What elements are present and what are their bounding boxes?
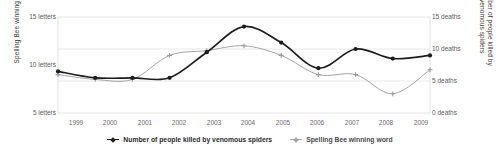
series-line bbox=[58, 26, 430, 79]
data-point-marker bbox=[316, 72, 321, 77]
series-spider-deaths bbox=[56, 25, 432, 80]
legend-item-spider-deaths[interactable]: Number of people killed by venomous spid… bbox=[107, 136, 272, 143]
chart-legend: Number of people killed by venomous spid… bbox=[0, 136, 500, 143]
data-point-marker bbox=[56, 69, 60, 73]
data-point-marker bbox=[130, 76, 134, 80]
data-point-marker bbox=[242, 25, 246, 29]
legend-label-spelling-bee: Spelling Bee winning word bbox=[306, 136, 392, 143]
data-point-marker bbox=[167, 53, 172, 58]
series-layer bbox=[56, 25, 433, 97]
data-point-marker bbox=[93, 76, 97, 80]
legend-item-spelling-bee[interactable]: Spelling Bee winning word bbox=[290, 136, 392, 143]
data-point-marker bbox=[279, 41, 283, 45]
data-point-marker bbox=[242, 43, 247, 48]
series-spelling-bee bbox=[56, 43, 433, 96]
data-point-marker bbox=[353, 72, 358, 77]
data-point-marker bbox=[390, 91, 395, 96]
legend-label-spider-deaths: Number of people killed by venomous spid… bbox=[123, 136, 272, 143]
legend-marker-diamond-icon bbox=[107, 136, 119, 143]
data-point-marker bbox=[391, 57, 395, 61]
data-point-marker bbox=[316, 66, 320, 70]
grid-lines bbox=[58, 17, 430, 113]
legend-marker-plus-icon bbox=[290, 136, 302, 143]
data-point-marker bbox=[428, 53, 432, 57]
data-point-marker bbox=[168, 76, 172, 80]
data-point-marker bbox=[354, 47, 358, 51]
data-point-marker bbox=[205, 50, 209, 54]
plot-area bbox=[0, 0, 500, 154]
chart-container: Spelling Bee winning word Number of peop… bbox=[0, 0, 500, 154]
data-point-marker bbox=[279, 53, 284, 58]
